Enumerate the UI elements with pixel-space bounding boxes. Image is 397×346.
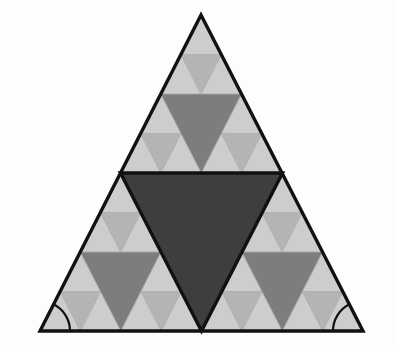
triangle-fractal-diagram — [0, 0, 397, 346]
figure-root — [0, 0, 397, 346]
